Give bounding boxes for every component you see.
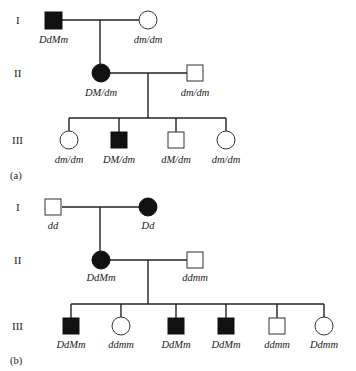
genotype-label: DdMm xyxy=(210,339,241,350)
pedigree-diagram: I II III DdMm dm/dm DM/dm dm/dm dm/dm DM… xyxy=(0,0,356,371)
panel-b: I II III dd Dd DdMm ddmm DdMm ddmm DdMm … xyxy=(10,198,338,367)
genotype-label: ddmm xyxy=(182,272,208,283)
genotype-label: dd xyxy=(48,220,59,231)
male-affected-symbol xyxy=(111,132,127,148)
female-affected-symbol xyxy=(92,64,110,82)
panel-a: I II III DdMm dm/dm DM/dm dm/dm dm/dm DM… xyxy=(10,11,241,182)
generation-label-b-3: III xyxy=(12,320,23,332)
male-unaffected-symbol xyxy=(269,318,285,334)
genotype-label: DM/dm xyxy=(102,154,135,165)
genotype-label: Dd xyxy=(141,220,156,231)
genotype-label: DdMm xyxy=(38,34,69,45)
generation-label-b-2: II xyxy=(14,254,22,266)
genotype-label: ddmm xyxy=(108,339,134,350)
male-affected-symbol xyxy=(45,12,62,29)
genotype-label: DdMm xyxy=(160,339,191,350)
male-unaffected-symbol xyxy=(45,199,61,215)
male-affected-symbol xyxy=(63,318,79,334)
female-unaffected-symbol xyxy=(315,317,333,335)
genotype-label: dm/dm xyxy=(181,87,210,98)
male-unaffected-symbol xyxy=(187,65,203,81)
panel-label-b: (b) xyxy=(10,355,23,367)
genotype-label: dm/dm xyxy=(134,34,163,45)
male-unaffected-symbol xyxy=(187,252,203,268)
genotype-label: DM/dm xyxy=(84,87,117,98)
female-unaffected-symbol xyxy=(112,317,130,335)
male-unaffected-symbol xyxy=(168,132,184,148)
female-unaffected-symbol xyxy=(139,11,157,29)
genotype-label: dm/dm xyxy=(212,154,241,165)
male-affected-symbol xyxy=(218,318,234,334)
female-unaffected-symbol xyxy=(217,131,235,149)
generation-label-a-2: II xyxy=(14,67,22,79)
female-unaffected-symbol xyxy=(60,131,78,149)
generation-label-b-1: I xyxy=(16,201,20,213)
genotype-label: ddmm xyxy=(264,339,290,350)
genotype-label: DdMm xyxy=(55,339,86,350)
genotype-label: dM/dm xyxy=(161,154,191,165)
panel-label-a: (a) xyxy=(10,170,22,182)
generation-label-a-3: III xyxy=(12,134,23,146)
female-affected-symbol xyxy=(92,251,110,269)
genotype-label: Ddmm xyxy=(309,339,338,350)
male-affected-symbol xyxy=(168,318,184,334)
genotype-label: dm/dm xyxy=(55,154,84,165)
generation-label-a-1: I xyxy=(16,14,20,26)
female-affected-symbol xyxy=(139,198,157,216)
genotype-label: DdMm xyxy=(85,272,116,283)
